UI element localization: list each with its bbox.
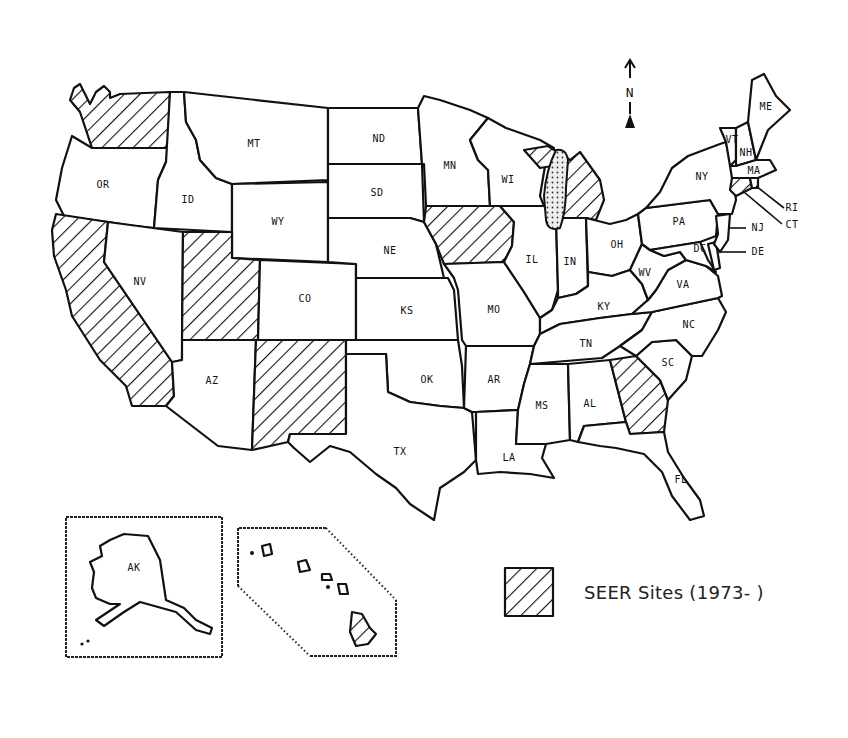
- svg-text:AK: AK: [127, 562, 140, 573]
- svg-text:AL: AL: [583, 398, 596, 409]
- svg-text:AZ: AZ: [205, 375, 218, 386]
- svg-text:MO: MO: [487, 304, 500, 315]
- svg-text:NJ: NJ: [751, 222, 764, 233]
- svg-text:CT: CT: [785, 219, 798, 230]
- hawaii-islands: [250, 544, 348, 594]
- state-fl[interactable]: [578, 422, 704, 520]
- svg-text:CO: CO: [298, 293, 311, 304]
- state-me[interactable]: [748, 74, 790, 160]
- svg-text:MA: MA: [747, 165, 760, 176]
- state-ct[interactable]: [730, 178, 752, 196]
- svg-text:ME: ME: [759, 101, 772, 112]
- state-or[interactable]: [56, 136, 168, 228]
- state-wa[interactable]: [70, 84, 170, 148]
- state-ak[interactable]: [90, 534, 212, 634]
- legend-label: SEER Sites (1973- ): [584, 582, 764, 603]
- svg-text:ID: ID: [181, 194, 194, 205]
- svg-text:FL: FL: [674, 474, 687, 485]
- legend-swatch: [505, 568, 553, 616]
- svg-text:NC: NC: [682, 319, 695, 330]
- svg-text:NE: NE: [383, 245, 396, 256]
- svg-text:WY: WY: [271, 216, 284, 227]
- svg-text:DE: DE: [751, 246, 764, 257]
- svg-text:TN: TN: [579, 338, 592, 349]
- svg-text:DC: DC: [693, 243, 706, 254]
- state-hi[interactable]: [350, 612, 376, 646]
- svg-text:OH: OH: [610, 239, 623, 250]
- svg-text:LA: LA: [502, 452, 515, 463]
- svg-text:VT: VT: [725, 134, 738, 145]
- state-ny[interactable]: [646, 142, 736, 214]
- svg-text:WV: WV: [638, 267, 651, 278]
- svg-text:ND: ND: [372, 133, 385, 144]
- svg-text:TX: TX: [393, 446, 406, 457]
- svg-text:IL: IL: [525, 254, 538, 265]
- svg-text:N: N: [626, 85, 634, 100]
- svg-text:OR: OR: [96, 179, 110, 190]
- north-arrow-icon: N: [625, 60, 635, 128]
- svg-text:WI: WI: [501, 174, 514, 185]
- svg-text:KY: KY: [597, 301, 610, 312]
- svg-text:RI: RI: [785, 202, 798, 213]
- svg-text:IN: IN: [563, 256, 576, 267]
- svg-text:MT: MT: [247, 138, 260, 149]
- svg-text:NV: NV: [133, 276, 146, 287]
- svg-text:PA: PA: [672, 216, 685, 227]
- svg-text:SC: SC: [661, 357, 674, 368]
- svg-text:VA: VA: [676, 279, 689, 290]
- svg-text:SD: SD: [370, 187, 383, 198]
- svg-text:AR: AR: [487, 374, 501, 385]
- svg-text:KS: KS: [400, 305, 413, 316]
- svg-text:OK: OK: [420, 374, 433, 385]
- hawaii-inset-frame: [238, 528, 326, 586]
- svg-text:MS: MS: [535, 400, 548, 411]
- us-map: OR NV ID MT WY CO AZ ND SD NE KS OK TX M…: [0, 0, 848, 738]
- svg-text:NH: NH: [739, 147, 752, 158]
- svg-text:MN: MN: [443, 160, 456, 171]
- svg-text:NY: NY: [695, 171, 708, 182]
